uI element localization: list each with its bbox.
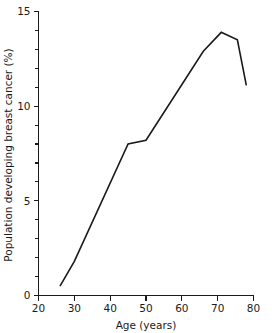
line-chart: 051015 20304050607080 Age (years) Popula…	[0, 0, 272, 333]
data-series-line	[60, 32, 246, 286]
y-axis-ticks	[34, 12, 39, 296]
y-tick-label: 10	[17, 100, 30, 112]
x-tick-label: 50	[139, 302, 152, 314]
x-axis-ticks	[39, 296, 254, 301]
chart-container: 051015 20304050607080 Age (years) Popula…	[0, 0, 272, 333]
x-tick-label: 40	[103, 302, 116, 314]
x-axis-tick-labels: 20304050607080	[32, 302, 260, 314]
y-axis-tick-labels: 051015	[17, 5, 30, 301]
y-axis-title: Population developing breast cancer (%)	[2, 48, 14, 261]
y-tick-label: 5	[24, 195, 31, 207]
x-tick-label: 60	[175, 302, 188, 314]
x-tick-label: 30	[68, 302, 81, 314]
x-axis-title: Age (years)	[116, 319, 177, 331]
x-tick-label: 20	[32, 302, 45, 314]
data-series-group	[60, 32, 246, 286]
x-tick-label: 70	[211, 302, 224, 314]
y-tick-label: 0	[24, 289, 31, 301]
y-tick-label: 15	[17, 5, 30, 17]
axes-group	[39, 12, 254, 296]
x-tick-label: 80	[247, 302, 260, 314]
